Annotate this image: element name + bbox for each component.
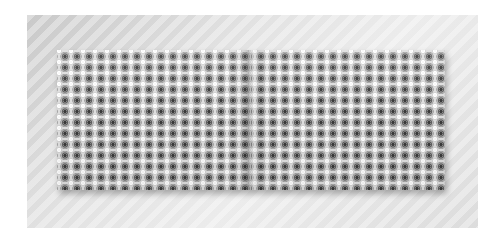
- book-page-right: [251, 50, 445, 190]
- open-book: [57, 50, 445, 190]
- book-page-left: [57, 50, 251, 190]
